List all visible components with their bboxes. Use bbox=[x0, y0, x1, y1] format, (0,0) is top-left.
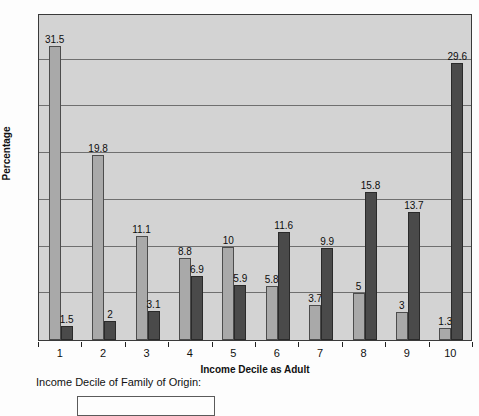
x-tick-label: 1 bbox=[40, 348, 80, 359]
bar-value-label: 29.6 bbox=[435, 52, 479, 62]
bar-value-label: 11.6 bbox=[262, 221, 306, 231]
bar bbox=[353, 293, 365, 340]
legend-caption: Income Decile of Family of Origin: bbox=[36, 376, 201, 388]
x-tick-label: 9 bbox=[387, 348, 427, 359]
bar bbox=[136, 236, 148, 340]
bar-value-label: 13.7 bbox=[392, 201, 436, 211]
x-tick-mark bbox=[125, 342, 126, 347]
x-tick-mark bbox=[255, 342, 256, 347]
bar-value-label: 9.9 bbox=[305, 237, 349, 247]
x-tick-mark bbox=[385, 342, 386, 347]
bar-value-label: 11.1 bbox=[120, 225, 164, 235]
x-tick-label: 4 bbox=[170, 348, 210, 359]
x-tick-label: 5 bbox=[213, 348, 253, 359]
bar bbox=[222, 247, 234, 340]
bar-value-label: 31.5 bbox=[33, 35, 77, 45]
x-tick-mark bbox=[429, 342, 430, 347]
x-tick-label: 2 bbox=[83, 348, 123, 359]
x-tick-label: 8 bbox=[344, 348, 384, 359]
x-tick-mark bbox=[212, 342, 213, 347]
bar-value-label: 3.1 bbox=[132, 300, 176, 310]
bar bbox=[49, 46, 61, 340]
bar-value-label: 1.5 bbox=[45, 315, 89, 325]
bar-value-label: 8.8 bbox=[163, 247, 207, 257]
plot-area: 31.519.811.18.8105.83.7531.31.523.16.95.… bbox=[38, 14, 472, 341]
x-tick-label: 6 bbox=[257, 348, 297, 359]
bar bbox=[104, 321, 116, 340]
x-tick-mark bbox=[342, 342, 343, 347]
bar-value-label: 15.8 bbox=[349, 181, 393, 191]
bar-value-label: 5.9 bbox=[218, 274, 262, 284]
bar bbox=[191, 276, 203, 340]
x-tick-mark bbox=[81, 342, 82, 347]
bar bbox=[309, 305, 321, 340]
bar-value-label: 19.8 bbox=[76, 144, 120, 154]
bar bbox=[148, 311, 160, 340]
bar bbox=[451, 63, 463, 340]
x-tick-mark bbox=[472, 342, 473, 347]
x-tick-mark bbox=[38, 342, 39, 347]
bar bbox=[408, 212, 420, 340]
bar bbox=[439, 328, 451, 340]
bar bbox=[266, 286, 278, 340]
x-tick-label: 7 bbox=[300, 348, 340, 359]
y-axis-title: Percentage bbox=[1, 94, 12, 214]
bar bbox=[278, 232, 290, 340]
x-tick-mark bbox=[298, 342, 299, 347]
bar bbox=[321, 248, 333, 340]
bar-value-label: 6.9 bbox=[175, 265, 219, 275]
x-tick-label: 10 bbox=[430, 348, 470, 359]
bar bbox=[61, 326, 73, 340]
bar bbox=[234, 285, 246, 340]
bar-value-label: 10 bbox=[206, 236, 250, 246]
bar bbox=[396, 312, 408, 340]
x-tick-label: 3 bbox=[127, 348, 167, 359]
bar-value-label: 2 bbox=[88, 310, 132, 320]
x-tick-mark bbox=[168, 342, 169, 347]
gridline bbox=[39, 105, 471, 106]
bar bbox=[365, 192, 377, 340]
legend-box bbox=[77, 396, 215, 416]
gridline bbox=[39, 59, 471, 60]
x-axis-title: Income Decile as Adult bbox=[38, 364, 472, 375]
